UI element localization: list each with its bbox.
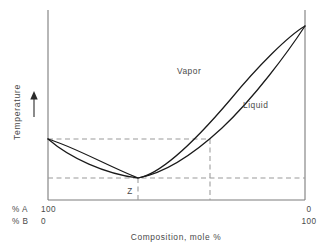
phase-diagram-figure: Temperature Composition, mole % Vapor Li… xyxy=(0,0,327,251)
y-axis-title: Temperature xyxy=(12,84,22,140)
component-a-row-label: % A xyxy=(12,205,28,214)
x-axis-title: Composition, mole % xyxy=(131,232,222,242)
component-b-left-value: 0 xyxy=(41,217,46,226)
component-a-left-value: 100 xyxy=(41,205,56,214)
liquid-curve-label: Liquid xyxy=(243,100,268,110)
component-a-right-value: 0 xyxy=(306,205,311,214)
azeotrope-point-label: Z xyxy=(127,187,132,196)
component-b-right-value: 100 xyxy=(301,217,316,226)
vapor-curve-label: Vapor xyxy=(177,66,201,76)
component-b-row-label: % B xyxy=(12,217,29,226)
up-arrow-icon xyxy=(30,91,37,117)
phase-diagram-canvas: Temperature Composition, mole % Vapor Li… xyxy=(0,0,327,251)
